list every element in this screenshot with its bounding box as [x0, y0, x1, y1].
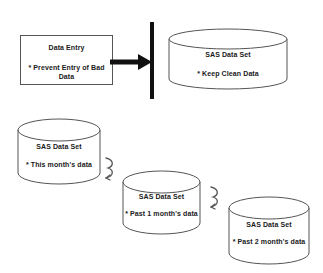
node-sas-this-month-title: SAS Data Set: [36, 142, 82, 151]
node-sas-past-2-detail: * Past 2 month's data: [229, 237, 309, 246]
node-sas-past-1[interactable]: SAS Data Set * Past 1 month's data: [122, 170, 201, 235]
node-sas-past-1-detail: * Past 1 month's data: [123, 209, 201, 218]
node-data-entry[interactable]: Data Entry * Prevent Entry of Bad Data: [20, 35, 113, 85]
diagram-canvas: Data Entry * Prevent Entry of Bad Data S…: [0, 0, 323, 273]
node-data-entry-detail: * Prevent Entry of Bad Data: [21, 63, 113, 81]
vertical-bar-icon: [150, 22, 154, 99]
node-sas-clean[interactable]: SAS Data Set * Keep Clean Data: [168, 28, 288, 90]
node-sas-clean-detail: * Keep Clean Data: [197, 69, 259, 78]
node-sas-past-2-title: SAS Data Set: [246, 220, 292, 229]
node-data-entry-title: Data Entry: [48, 43, 84, 52]
node-sas-clean-title: SAS Data Set: [205, 50, 251, 59]
right-arrow-icon: [110, 52, 152, 72]
curved-arrow-icon: [205, 184, 227, 210]
node-sas-past-2[interactable]: SAS Data Set * Past 2 month's data: [228, 196, 310, 265]
node-sas-this-month[interactable]: SAS Data Set * This month's data: [17, 118, 101, 185]
node-sas-past-1-title: SAS Data Set: [139, 192, 185, 201]
curved-arrow-icon: [100, 155, 122, 181]
node-sas-this-month-detail: * This month's data: [26, 160, 92, 169]
